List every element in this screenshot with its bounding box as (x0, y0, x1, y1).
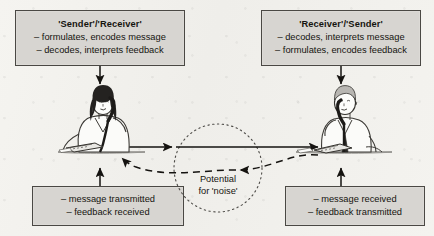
noise-label-line-2: for 'noise' (182, 185, 254, 197)
noise-label-line-1: Potential (182, 173, 254, 185)
figure-man-on-telephone (296, 86, 392, 154)
noise-label: Potential for 'noise' (182, 173, 254, 197)
noise-circle (174, 124, 262, 212)
diagram-canvas: 'Sender'/'Receiver' – formulates, encode… (0, 0, 434, 236)
diagram-vector-layer (0, 0, 434, 236)
figure-woman-on-telephone (58, 85, 145, 154)
feedback-flow-arrow (122, 155, 318, 173)
